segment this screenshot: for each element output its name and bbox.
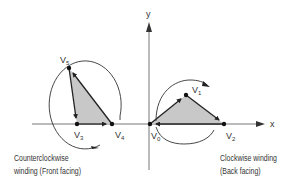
ccw-caption-line1: Counterclockwise — [14, 152, 81, 165]
cw-winding-arc-bottom — [156, 127, 214, 144]
right-triangle — [148, 93, 226, 126]
ccw-caption: Counterclockwise winding (Front facing) — [14, 152, 81, 178]
vertex-label-v0: V0 — [151, 131, 161, 142]
vertex-label-v4: V4 — [115, 130, 125, 141]
vertex-label-v1: V1 — [192, 85, 202, 96]
vertex-label-v2: V2 — [226, 131, 236, 142]
left-triangle — [67, 66, 114, 126]
cw-arrow-icon — [202, 81, 210, 87]
y-axis — [146, 22, 152, 170]
vertex-label-v5: V5 — [60, 55, 70, 66]
vertex-label-v3: V3 — [74, 130, 84, 141]
cw-caption-line2: (Back facing) — [220, 165, 277, 178]
cw-caption: Clockwise winding (Back facing) — [220, 152, 277, 178]
x-axis-label: x — [270, 119, 275, 129]
ccw-caption-line2: winding (Front facing) — [14, 165, 81, 178]
x-axis-arrow-icon — [256, 121, 265, 127]
cw-caption-line1: Clockwise winding — [220, 152, 277, 165]
y-axis-arrow-icon — [146, 22, 152, 32]
y-axis-label: y — [146, 9, 151, 19]
